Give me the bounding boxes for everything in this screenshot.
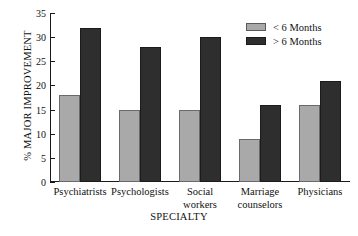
y-tick-label-5: 5	[20, 158, 46, 159]
y-tick-35: 35	[50, 13, 55, 14]
y-tick-label-0: 0	[20, 182, 46, 183]
bar	[119, 110, 140, 182]
y-axis-title: % MAJOR IMPROVEMENT	[22, 11, 33, 181]
bar	[260, 105, 281, 182]
y-tick-label-25: 25	[20, 61, 46, 62]
y-tick-label-15: 15	[20, 110, 46, 111]
bar	[239, 139, 260, 182]
bar-group	[290, 81, 350, 182]
y-tick-label-35: 35	[20, 13, 46, 14]
y-tick-label-10: 10	[20, 134, 46, 135]
legend-label-under-6-months: < 6 Months	[273, 22, 322, 33]
bar-chart: % MAJOR IMPROVEMENT 05101520253035 Psych…	[0, 0, 358, 236]
y-tick-label-20: 20	[20, 85, 46, 86]
legend-item-over-6-months: > 6 Months	[246, 34, 322, 48]
bar	[179, 110, 200, 182]
legend-label-over-6-months: > 6 Months	[273, 36, 322, 47]
category-label-line: counselors	[217, 199, 303, 212]
legend-item-under-6-months: < 6 Months	[246, 20, 322, 34]
bar	[140, 47, 161, 182]
bar-group	[230, 105, 290, 182]
legend-swatch-light-gray	[246, 23, 266, 31]
bar	[59, 95, 80, 182]
category-label: Physicians	[277, 186, 358, 199]
bar-group	[170, 37, 230, 182]
legend: < 6 Months > 6 Months	[246, 20, 322, 48]
y-tick-label-30: 30	[20, 37, 46, 38]
bar-group	[110, 47, 170, 182]
bar	[299, 105, 320, 182]
bar	[320, 81, 341, 182]
bar-group	[50, 28, 110, 183]
x-axis-title: SPECIALTY	[0, 211, 358, 222]
y-tick-0: 0	[50, 182, 55, 183]
bar	[200, 37, 221, 182]
category-label-line: Physicians	[277, 186, 358, 199]
legend-swatch-dark-gray	[246, 37, 266, 45]
bar	[80, 28, 101, 183]
